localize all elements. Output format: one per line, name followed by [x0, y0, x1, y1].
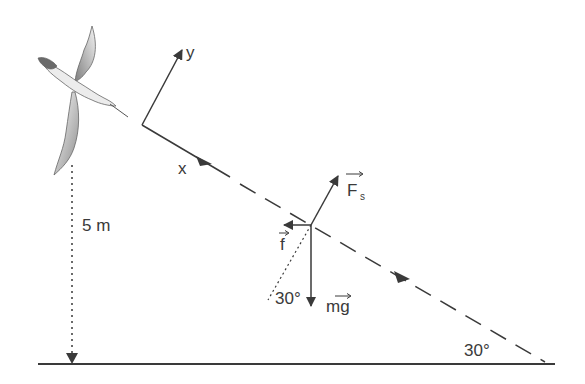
bird-icon	[38, 26, 128, 175]
spring-force-subscript: s	[360, 191, 365, 202]
angle-label-force: 30°	[275, 289, 301, 308]
incline-arrowhead	[394, 271, 410, 283]
x-axis-label: x	[178, 159, 187, 178]
weight-symbol: mg	[326, 297, 350, 316]
weight-label: mg	[326, 294, 351, 317]
spring-force-label: F s	[346, 172, 365, 203]
angle-label-ground: 30°	[464, 341, 490, 360]
spring-force-vector	[311, 176, 338, 225]
friction-label: f	[279, 231, 289, 255]
height-arrowhead	[66, 353, 78, 364]
spring-force-symbol: F	[347, 181, 357, 200]
friction-symbol: f	[280, 235, 285, 254]
y-axis-label: y	[186, 43, 195, 62]
physics-diagram: y x 5 m F s f mg 30° 30°	[0, 0, 585, 384]
height-label: 5 m	[82, 216, 110, 235]
incline-path	[240, 184, 545, 362]
y-axis	[142, 50, 182, 125]
